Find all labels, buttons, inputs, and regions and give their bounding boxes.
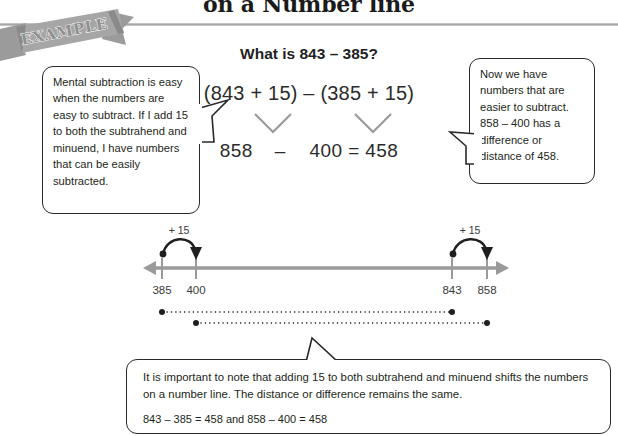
callout-bottom: It is important to note that adding 15 t…: [126, 359, 611, 434]
number-line-axis: [143, 261, 509, 275]
jump-arrow-left: [160, 239, 202, 260]
jump-label-left: + 15: [159, 224, 199, 236]
number-line: + 15 + 15 385 400 843 858: [0, 222, 618, 334]
callout-left-text: Mental subtraction is easy when the numb…: [53, 74, 190, 189]
jump-label-right: + 15: [450, 224, 490, 236]
result-operator: –: [275, 140, 286, 161]
callout-right-tail: [444, 130, 482, 174]
distance-bar-upper: [159, 309, 455, 315]
distance-bar-lower: [193, 320, 490, 326]
tick-label-858: 858: [464, 284, 510, 296]
callout-bottom-tail: [296, 334, 366, 370]
callout-left-tail: [198, 98, 244, 150]
callout-bottom-equation: 843 – 385 = 458 and 858 – 400 = 458: [143, 411, 596, 428]
callout-left: Mental subtraction is easy when the numb…: [42, 66, 200, 214]
tick-label-400: 400: [173, 284, 219, 296]
callout-bottom-paragraph: It is important to note that adding 15 t…: [143, 369, 596, 404]
result-subtrahend-and-answer: 400 = 458: [310, 140, 399, 161]
callout-right: Now we have numbers that are easier to s…: [469, 58, 595, 184]
jump-arrow-right: [450, 239, 493, 260]
callout-right-text: Now we have numbers that are easier to s…: [480, 66, 585, 165]
